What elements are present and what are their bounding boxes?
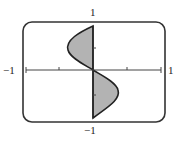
label-top: 1	[90, 7, 96, 18]
graph-screen	[0, 0, 175, 141]
label-right: 1	[168, 65, 174, 76]
label-bottom: −1	[84, 125, 96, 136]
label-left: −1	[3, 65, 15, 76]
